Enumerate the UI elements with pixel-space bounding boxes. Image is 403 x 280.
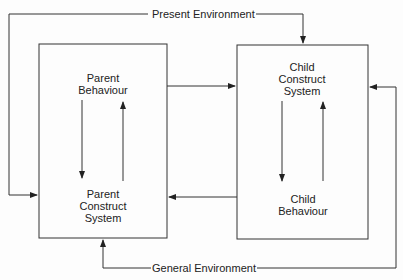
present-environment-label: Present Environment	[151, 8, 256, 20]
parent-construct-system-label: Parent Construct System	[63, 188, 143, 224]
child-construct-system-label: Child Construct System	[262, 61, 342, 97]
diagram-lines	[0, 0, 403, 280]
general-environment-line-left	[103, 240, 151, 268]
general-environment-label: General Environment	[151, 262, 257, 274]
child-behaviour-label: Child Behaviour	[263, 193, 343, 217]
parent-behaviour-label: Parent Behaviour	[63, 72, 143, 96]
present-environment-line-right	[252, 14, 303, 43]
present-environment-line	[9, 14, 148, 195]
diagram-canvas: Present Environment General Environment …	[0, 0, 403, 280]
